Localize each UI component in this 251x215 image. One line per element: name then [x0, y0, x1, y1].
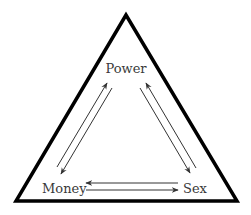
triangle-frame	[16, 15, 237, 201]
arrow-sex-to-power	[146, 83, 196, 168]
arrow-money-to-power	[57, 83, 107, 167]
node-power: Power	[105, 61, 147, 76]
node-money: Money	[42, 181, 87, 196]
arrow-power-to-money	[61, 88, 112, 174]
arrow-power-to-sex	[140, 88, 190, 173]
node-sex: Sex	[183, 181, 208, 196]
power-money-sex-triangle-diagram: Power Money Sex	[0, 0, 251, 215]
